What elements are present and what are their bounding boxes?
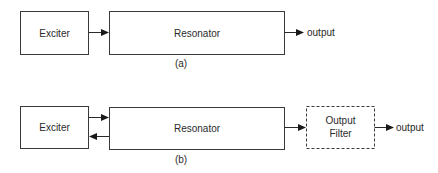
exciter-resonator-diagram: Exciter Resonator output (a) Exciter Res…: [0, 0, 438, 173]
output-filter-label-line2: Filter: [329, 128, 352, 139]
diagram-b: Exciter Resonator Output Filter output (…: [21, 107, 425, 166]
exciter-label-a: Exciter: [39, 28, 70, 39]
output-filter-label-line1: Output: [325, 115, 355, 126]
resonator-label-a: Resonator: [174, 28, 221, 39]
arrowhead-icon: [296, 29, 304, 36]
diagram-a: Exciter Resonator output (a): [21, 12, 336, 70]
arrowhead-icon: [101, 29, 109, 36]
arrowhead-icon: [89, 133, 97, 140]
arrowhead-icon: [386, 124, 394, 131]
caption-b: (b): [175, 154, 187, 165]
output-label-a: output: [307, 27, 335, 38]
caption-a: (a): [175, 58, 187, 69]
output-label-b: output: [396, 122, 424, 133]
exciter-label-b: Exciter: [39, 122, 70, 133]
resonator-label-b: Resonator: [174, 123, 221, 134]
arrowhead-icon: [101, 114, 109, 121]
arrowhead-icon: [298, 124, 306, 131]
